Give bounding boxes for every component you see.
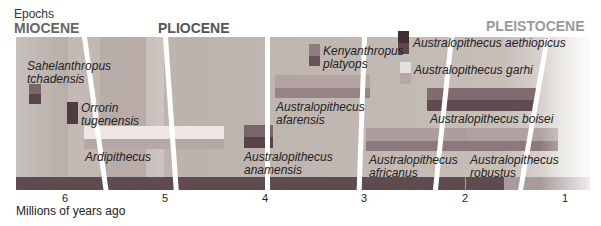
label-kenyanthropus: Kenyanthropus platyops xyxy=(323,45,404,71)
kenyanthropus-bar-lower xyxy=(309,56,320,66)
label-africanus: Australopithecus africanus xyxy=(369,154,458,180)
label-anamensis: Australopithecus anamensis xyxy=(244,151,333,177)
label-ardipithecus: Ardipithecus xyxy=(85,151,151,164)
epoch-miocene: MIOCENE xyxy=(14,20,79,36)
label-aethiopicus: Australopithecus aethiopicus xyxy=(413,37,566,50)
label-boisei: Australopithecus boisei xyxy=(430,113,553,126)
sahelanthropus-bar xyxy=(29,84,41,104)
tick-6: 6 xyxy=(62,192,68,204)
aethiopicus-bar xyxy=(398,31,409,43)
label-sahelanthropus: Sahelanthropus tchadensis xyxy=(27,60,111,86)
tick-2: 2 xyxy=(462,192,468,204)
epoch-pleistocene: PLEISTOCENE xyxy=(486,18,585,34)
label-garhi: Australopithecus garhi xyxy=(414,64,533,77)
epochs-label: Epochs xyxy=(14,7,54,21)
tick-5: 5 xyxy=(162,192,168,204)
pliocene-band-light xyxy=(146,37,164,190)
tick-4: 4 xyxy=(262,192,268,204)
afarensis-bar xyxy=(275,75,370,88)
label-robustus: Australopithecus robustus xyxy=(470,154,559,180)
garhi-bar-lower xyxy=(400,73,411,84)
afarensis-bar-lower xyxy=(275,88,370,98)
epoch-pliocene: PLIOCENE xyxy=(158,20,230,36)
label-orrorin: Orrorin tugenensis xyxy=(81,102,139,128)
axis-label: Millions of years ago xyxy=(16,204,125,218)
africanus-bar-lower xyxy=(366,141,466,151)
label-afarensis: Australopithecus afarensis xyxy=(276,101,365,127)
kenyanthropus-bar xyxy=(309,44,320,56)
ardipithecus-bar-lower xyxy=(84,139,224,149)
tick-3: 3 xyxy=(361,192,367,204)
orrorin-bar xyxy=(67,102,78,124)
africanus-bar xyxy=(366,128,466,141)
tick-1: 1 xyxy=(562,192,568,204)
